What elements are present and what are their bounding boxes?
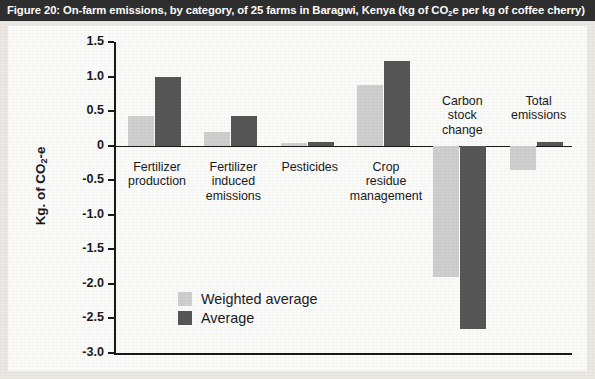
x-category-label: Total emissions (493, 94, 585, 123)
legend-swatch-icon (178, 311, 192, 325)
bar-weighted-average (128, 116, 154, 146)
bar-average (537, 142, 563, 145)
bar-average (231, 116, 257, 146)
chart-legend: Weighted averageAverage (178, 291, 318, 329)
bar-weighted-average (510, 146, 536, 170)
legend-label: Weighted average (201, 291, 318, 307)
y-tick-label: -2.5 (64, 310, 104, 324)
bar-weighted-average (357, 85, 383, 146)
bar-average (155, 77, 181, 146)
y-axis-tick-labels: 1.51.00.50-0.5-1.0-1.5-2.0-2.5-3.0 (60, 26, 104, 371)
bar-group (431, 42, 499, 355)
y-axis-title-part2: -e (33, 147, 48, 159)
legend-item: Weighted average (178, 291, 318, 307)
bar-weighted-average (433, 146, 459, 277)
bar-weighted-average (281, 143, 307, 146)
bar-average (384, 61, 410, 145)
y-tick-label: -1.5 (64, 241, 104, 255)
y-axis-title: Kg. of CO2-e (33, 111, 49, 261)
y-tick-label: 1.0 (64, 69, 104, 83)
figure-title-bar: Figure 20: On-farm emissions, by categor… (0, 0, 595, 21)
y-axis-title-subscript: 2 (39, 159, 49, 164)
y-tick-label: -0.5 (64, 172, 104, 186)
figure-title-text-part2: e per kg of coffee cherry) (452, 4, 584, 16)
y-tick-label: 1.5 (64, 34, 104, 48)
legend-swatch-icon (178, 292, 192, 306)
figure-title-text-part1: Figure 20: On-farm emissions, by categor… (7, 4, 448, 16)
bar-weighted-average (204, 132, 230, 146)
legend-label: Average (201, 310, 254, 326)
x-category-label: Crop residue management (340, 160, 432, 203)
y-axis-title-part1: Kg. of CO (33, 164, 48, 226)
y-tick-label: -1.0 (64, 207, 104, 221)
y-tick-label: -2.0 (64, 276, 104, 290)
y-tick-label: 0.5 (64, 103, 104, 117)
bar-average (460, 146, 486, 329)
bar-group (508, 42, 576, 355)
legend-item: Average (178, 310, 318, 326)
y-tick-label: 0 (64, 138, 104, 152)
y-tick-label: -3.0 (64, 345, 104, 359)
bar-average (308, 142, 334, 146)
chart-canvas: Kg. of CO2-e 1.51.00.50-0.5-1.0-1.5-2.0-… (8, 26, 587, 371)
